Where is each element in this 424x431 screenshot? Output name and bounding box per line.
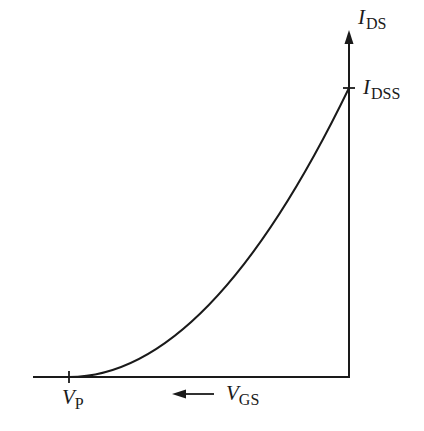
- vgs-direction-arrow-icon: [172, 390, 186, 399]
- vgs-axis-label: VGS: [226, 381, 259, 408]
- jfet-transfer-diagram: IDS IDSS VP VGS: [0, 0, 424, 431]
- ids-axis-label: IDS: [357, 5, 386, 32]
- vp-label: VP: [62, 385, 84, 412]
- transfer-curve: [69, 88, 349, 377]
- ids-axis-arrow-icon: [345, 30, 354, 44]
- idss-label: IDSS: [362, 75, 400, 102]
